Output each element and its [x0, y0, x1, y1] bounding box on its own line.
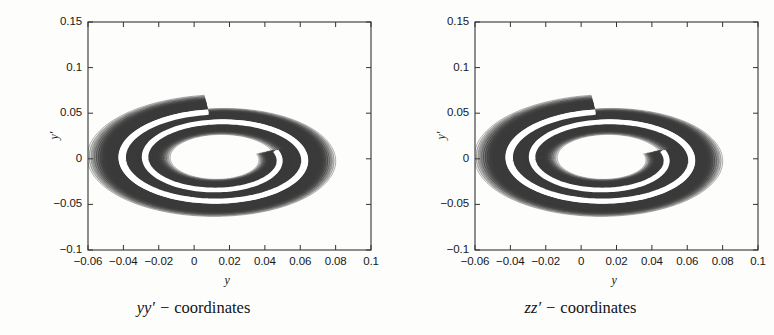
caption-dash: −	[160, 298, 169, 317]
y-tick-label: −0.1	[60, 243, 82, 255]
x-axis-label: y	[612, 273, 617, 288]
y-tick-label: 0.1	[66, 61, 82, 73]
y-tick-label: 0	[463, 152, 469, 164]
x-axis-label: y	[225, 273, 230, 288]
figure-two-phase-space-plots: 0.150.10.050−0.05−0.1−0.06−0.04−0.0200.0…	[0, 0, 774, 335]
plot-canvas	[387, 0, 774, 335]
plot-panel-zz: 0.150.10.050−0.05−0.1−0.06−0.04−0.0200.0…	[387, 0, 774, 335]
plot-canvas	[0, 0, 387, 335]
x-tick-label: 0.1	[736, 255, 774, 267]
y-tick-label: −0.05	[53, 197, 82, 209]
y-axis-label: y′	[434, 118, 449, 154]
panel-caption: zz′−coordinates	[387, 298, 774, 318]
y-tick-label: −0.05	[440, 197, 469, 209]
spiral-filament-group	[474, 95, 722, 216]
caption-symbol: yy′	[137, 298, 155, 317]
panel-caption: yy′−coordinates	[0, 298, 387, 318]
spiral-filament-group	[87, 95, 335, 216]
y-axis-label: y′	[47, 118, 62, 154]
caption-word: coordinates	[560, 298, 636, 317]
y-tick-label: 0.05	[60, 106, 82, 118]
plot-panel-yy: 0.150.10.050−0.05−0.1−0.06−0.04−0.0200.0…	[0, 0, 387, 335]
y-tick-label: 0.05	[447, 106, 469, 118]
y-tick-label: −0.1	[447, 243, 469, 255]
y-tick-label: 0	[76, 152, 82, 164]
caption-symbol: zz′	[525, 298, 541, 317]
y-tick-label: 0.1	[453, 61, 469, 73]
y-tick-label: 0.15	[60, 15, 82, 27]
caption-dash: −	[546, 298, 555, 317]
caption-word: coordinates	[174, 298, 250, 317]
y-tick-label: 0.15	[447, 15, 469, 27]
